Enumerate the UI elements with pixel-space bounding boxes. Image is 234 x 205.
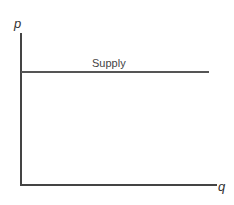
x-axis-label: q [218, 179, 225, 194]
x-axis [20, 184, 217, 186]
supply-label: Supply [92, 57, 126, 69]
y-axis-label: p [14, 16, 21, 31]
supply-curve [21, 71, 209, 73]
y-axis [20, 33, 22, 186]
